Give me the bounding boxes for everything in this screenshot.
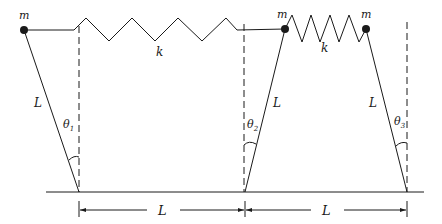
spring-2	[285, 15, 366, 42]
spring-2-label: k	[321, 41, 328, 55]
arrowhead-icon	[238, 208, 244, 212]
spring-1-label: k	[156, 45, 163, 59]
mass-1	[20, 26, 28, 34]
theta-2-label: θ2	[247, 118, 259, 133]
mass-2-label: m	[277, 8, 287, 21]
mass-2	[281, 25, 289, 33]
rod-3-label: L	[368, 96, 377, 110]
theta-3-label: θ3	[394, 115, 406, 130]
theta-1-label: θ1	[63, 118, 74, 133]
spacing-2-label: L	[321, 203, 331, 218]
rod-1-label: L	[33, 96, 42, 110]
rod-2	[245, 29, 285, 192]
arrowhead-icon	[400, 208, 406, 212]
spacing-1-label: L	[157, 203, 167, 218]
rod-1	[24, 30, 79, 192]
rod-3	[366, 29, 407, 192]
arrowhead-icon	[80, 208, 86, 212]
arrowhead-icon	[246, 208, 252, 212]
mass-1-label: m	[19, 9, 29, 22]
spring-1	[24, 18, 285, 41]
rod-2-label: L	[272, 96, 281, 110]
mass-3-label: m	[361, 8, 371, 21]
mass-3	[362, 25, 370, 33]
angle-arc-1	[69, 156, 79, 160]
angle-arc-3	[396, 142, 407, 146]
pendulum-spring-diagram: m m m k k L L L θ1 θ2 θ3 L L	[0, 0, 442, 224]
angle-arc-2	[244, 142, 256, 145]
